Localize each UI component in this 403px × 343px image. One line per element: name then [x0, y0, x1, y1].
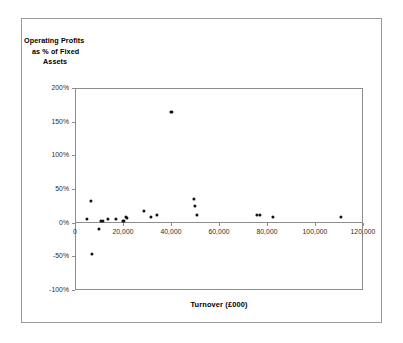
- x-tick-label: 80,000: [243, 228, 291, 235]
- x-tick-label: 20,000: [99, 228, 147, 235]
- y-axis-title-line-3: Assets: [18, 57, 120, 68]
- y-tick-mark: [72, 256, 75, 257]
- y-tick-mark: [72, 122, 75, 123]
- scatter-chart-figure: Operating Profits as % of Fixed Assets 2…: [0, 0, 403, 343]
- y-axis-title-line-1: Operating Profits: [18, 36, 120, 47]
- y-tick-label: -100%: [29, 286, 69, 293]
- x-tick-mark: [123, 223, 124, 226]
- y-tick-mark: [72, 290, 75, 291]
- x-tick-label: 120,000: [339, 228, 387, 235]
- x-tick-label: 40,000: [147, 228, 195, 235]
- x-tick-label: 100,000: [291, 228, 339, 235]
- y-tick-label: 100%: [29, 151, 69, 158]
- plot-area: [75, 88, 363, 290]
- x-axis-title: Turnover (£000): [75, 300, 363, 309]
- x-tick-mark: [171, 223, 172, 226]
- y-tick-label: 150%: [29, 118, 69, 125]
- y-tick-label: -50%: [29, 252, 69, 259]
- x-tick-label: 60,000: [195, 228, 243, 235]
- y-tick-label: 0%: [29, 219, 69, 226]
- y-axis-title-line-2: as % of Fixed: [18, 47, 120, 58]
- y-tick-label: 50%: [29, 185, 69, 192]
- x-tick-mark: [219, 223, 220, 226]
- y-tick-mark: [72, 189, 75, 190]
- y-tick-label: 200%: [29, 84, 69, 91]
- x-tick-mark: [75, 223, 76, 226]
- x-tick-label: 0: [51, 228, 99, 235]
- x-tick-mark: [315, 223, 316, 226]
- y-tick-mark: [72, 88, 75, 89]
- x-tick-mark: [363, 223, 364, 226]
- y-axis-title: Operating Profits as % of Fixed Assets: [18, 36, 120, 68]
- x-tick-mark: [267, 223, 268, 226]
- y-tick-mark: [72, 155, 75, 156]
